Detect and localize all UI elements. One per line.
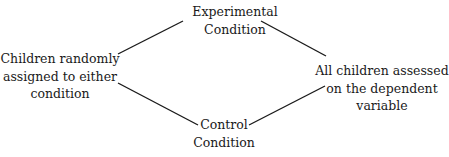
edge-left-to-top xyxy=(118,21,183,54)
edge-left-to-bottom xyxy=(118,83,198,125)
node-label-line: on the dependent xyxy=(315,80,448,98)
node-label-line: Children randomly xyxy=(1,50,120,68)
node-label-line: condition xyxy=(1,85,120,103)
node-control-condition: Control Condition xyxy=(193,116,255,151)
node-label-line: All children assessed xyxy=(315,62,448,80)
node-random-assignment: Children randomly assigned to either con… xyxy=(1,50,120,103)
node-label-line: variable xyxy=(315,97,448,115)
node-label-line: assigned to either xyxy=(1,68,120,86)
edge-bottom-to-right xyxy=(249,86,325,125)
node-label-line: Control xyxy=(193,116,255,134)
node-label-line: Condition xyxy=(193,134,255,152)
node-label-line: Experimental xyxy=(192,3,277,21)
node-experimental-condition: Experimental Condition xyxy=(192,3,277,38)
node-assessment: All children assessed on the dependent v… xyxy=(315,62,448,115)
node-label-line: Condition xyxy=(192,21,277,39)
